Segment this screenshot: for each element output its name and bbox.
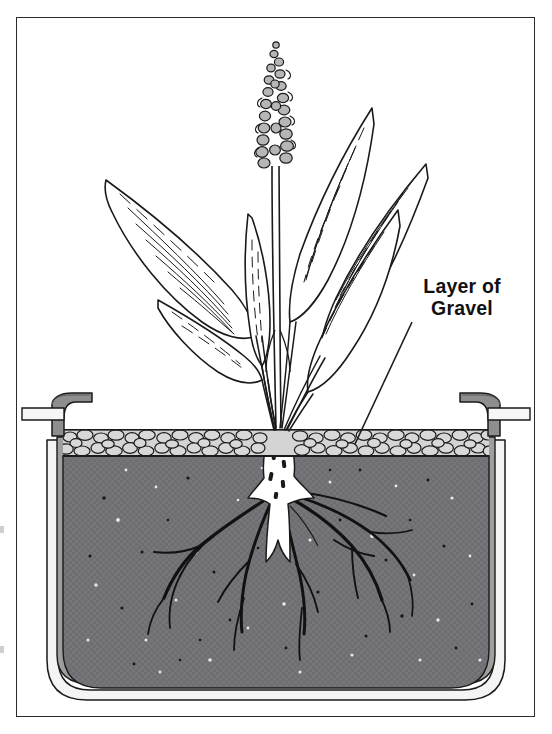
gravel-label-line2: Gravel xyxy=(431,297,493,319)
flower-spike xyxy=(256,42,294,168)
gravel-layer xyxy=(59,429,497,457)
gravel-label-line1: Layer of xyxy=(423,275,500,297)
plant-pot-illustration xyxy=(0,0,552,734)
gravel-leader-line xyxy=(355,322,412,444)
gravel-label: Layer ofGravel xyxy=(398,276,526,320)
figure-canvas: Layer ofGravel xyxy=(0,0,552,734)
